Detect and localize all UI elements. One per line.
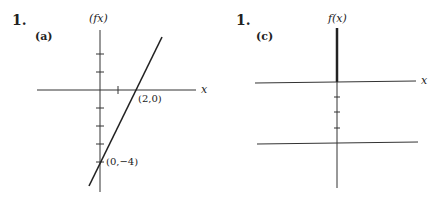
graph-1a [0,0,220,200]
x-axis-label: x [201,83,207,96]
y-axis-label: f(x) [328,12,347,25]
y-axis-label: (fx) [89,12,108,25]
x-axis [255,81,416,83]
part-label: (a) [35,30,53,43]
figure-1a: 1. (a) (fx) x (2,0) (0,−4) [0,0,220,200]
problem-number: 1. [12,12,27,28]
figure-1c: 1. (c) f(x) x [220,0,437,200]
problem-number: 1. [236,12,251,28]
x-axis-label: x [421,74,427,87]
graph-1c [220,0,437,200]
point-label-x-intercept: (2,0) [138,93,162,104]
part-label: (c) [256,30,273,43]
point-label-y-intercept: (0,−4) [106,156,138,167]
